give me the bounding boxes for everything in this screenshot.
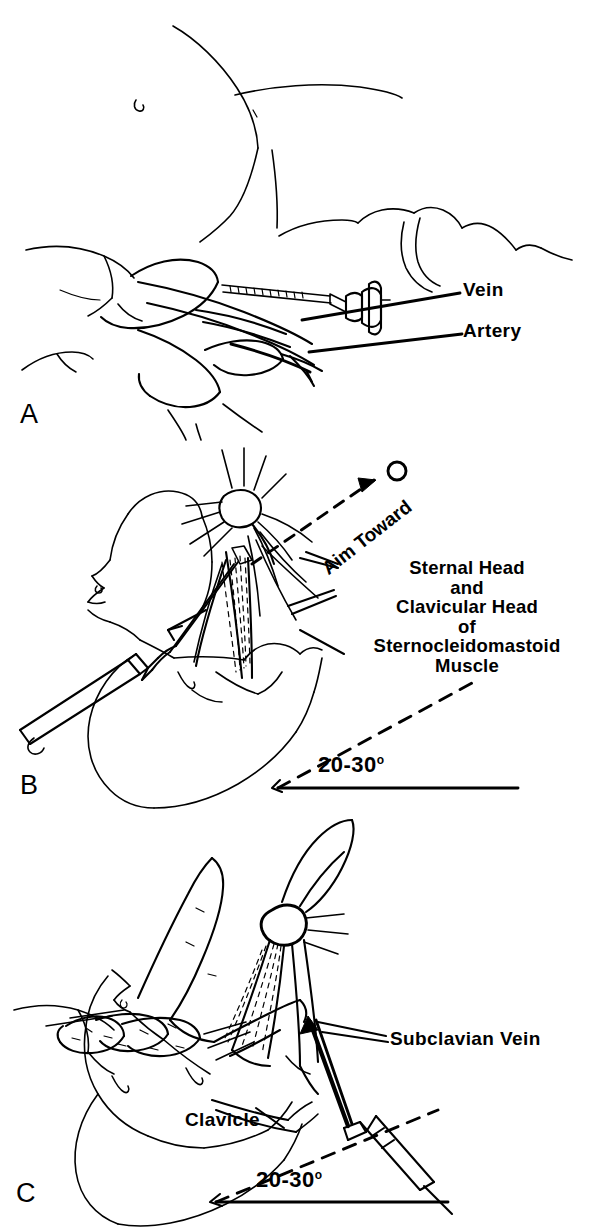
leader-line-artery bbox=[309, 334, 462, 352]
label-artery: Artery bbox=[463, 321, 521, 342]
angle-value-b: 20-30 bbox=[318, 752, 377, 777]
panel-letter-a: A bbox=[20, 399, 38, 430]
degree-symbol-c: o bbox=[315, 1168, 323, 1182]
label-sternocleidomastoid: Sternal Head and Clavicular Head of Ster… bbox=[342, 558, 592, 676]
angle-20-30-b: 20-30o bbox=[318, 752, 385, 778]
needle-and-syringe bbox=[20, 562, 238, 754]
scm-line-1: Sternal Head bbox=[342, 558, 592, 578]
scm-line-6: Muscle bbox=[342, 656, 592, 676]
label-subclavian-vein: Subclavian Vein bbox=[390, 1029, 541, 1050]
scm-line-2: and bbox=[342, 578, 592, 598]
panel-a-artwork bbox=[0, 0, 592, 440]
angle-value-c: 20-30 bbox=[256, 1167, 315, 1192]
label-vein: Vein bbox=[463, 280, 504, 301]
panel-letter-b: B bbox=[20, 770, 38, 801]
scm-line-3: Clavicular Head bbox=[342, 597, 592, 617]
label-clavicle: Clavicle bbox=[185, 1110, 260, 1131]
figure-container: Vein Artery A bbox=[0, 0, 592, 1231]
hand-and-fingers bbox=[22, 247, 283, 440]
sternocleidomastoid-muscle bbox=[204, 820, 354, 1094]
angle-20-30-c: 20-30o bbox=[256, 1167, 323, 1193]
panel-c: Subclavian Vein Clavicle 20-30o C bbox=[0, 810, 592, 1231]
panel-a: Vein Artery A bbox=[0, 0, 592, 440]
angle-indicator-b bbox=[272, 682, 518, 792]
shoulder-and-chest-outline bbox=[134, 26, 572, 292]
degree-symbol-b: o bbox=[377, 753, 385, 767]
head-profile-outline bbox=[88, 491, 212, 658]
scm-line-4: of bbox=[342, 617, 592, 637]
panel-letter-c: C bbox=[16, 1178, 36, 1209]
panel-b: Aim Toward Sternal Head and Clavicular H… bbox=[0, 440, 592, 810]
scm-line-5: Sternocleidomastoid bbox=[342, 636, 592, 656]
nipple-target-circle bbox=[388, 462, 406, 480]
